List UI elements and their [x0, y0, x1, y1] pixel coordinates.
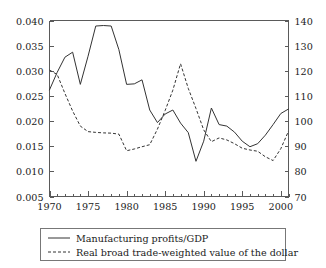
- x-tick-label: 1980: [114, 201, 138, 212]
- chart-figure: 0.0050.0100.0150.0200.0250.0300.0350.040…: [0, 0, 326, 268]
- x-tick-label: 2000: [269, 201, 293, 212]
- right-tick-label: 120: [295, 66, 313, 77]
- left-tick-label: 0.025: [16, 91, 43, 102]
- right-tick-label: 140: [295, 16, 313, 27]
- x-tick-label: 1990: [191, 201, 215, 212]
- right-tick-label: 100: [295, 116, 313, 127]
- left-tick-label: 0.020: [16, 116, 43, 127]
- x-tick-label: 1995: [230, 201, 254, 212]
- left-tick-label: 0.040: [16, 16, 43, 27]
- x-tick-label: 1985: [153, 201, 177, 212]
- right-tick-label: 90: [295, 141, 307, 152]
- right-tick-label: 70: [295, 192, 307, 203]
- plot-frame: [50, 21, 289, 197]
- chart-legend: Manufacturing profits/GDP Real broad tra…: [41, 229, 299, 261]
- data-series-group: [50, 26, 289, 162]
- right-tick-label: 110: [295, 91, 313, 102]
- line-chart: 0.0050.0100.0150.0200.0250.0300.0350.040…: [0, 0, 326, 268]
- legend-label-real-dollar-value: Real broad trade-weighted value of the d…: [76, 247, 298, 258]
- legend-label-manufacturing-profits: Manufacturing profits/GDP: [76, 233, 209, 244]
- x-axis-ticks: 1970197519801985199019952000: [37, 191, 293, 212]
- series-line-solid: [50, 26, 289, 162]
- right-tick-label: 80: [295, 166, 307, 177]
- left-tick-label: 0.010: [16, 166, 43, 177]
- left-tick-label: 0.035: [16, 41, 43, 52]
- left-tick-label: 0.030: [16, 66, 43, 77]
- left-tick-label: 0.015: [16, 141, 43, 152]
- x-tick-label: 1970: [37, 201, 61, 212]
- right-tick-label: 130: [295, 41, 313, 52]
- left-axis-ticks: 0.0050.0100.0150.0200.0250.0300.0350.040: [16, 16, 53, 203]
- x-tick-label: 1975: [76, 201, 100, 212]
